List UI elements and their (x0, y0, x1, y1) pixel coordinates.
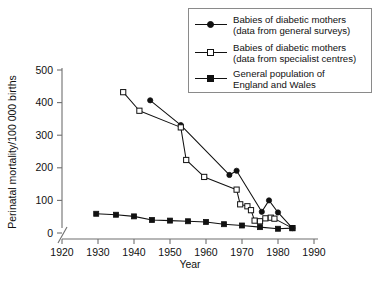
data-point (276, 226, 281, 231)
data-point (168, 218, 173, 223)
x-axis-ticks (62, 239, 314, 244)
series-markers (94, 90, 295, 232)
x-tick-label: 1940 (122, 246, 146, 258)
legend-label-specialist-centres: Babies of diabetic mothers(data from spe… (233, 42, 360, 65)
y-tick-label: 100 (35, 194, 53, 206)
series-lines (96, 92, 292, 229)
series-line-1 (123, 92, 292, 228)
x-tick-label: 1920 (50, 246, 74, 258)
data-point (178, 125, 183, 130)
data-point (275, 210, 280, 215)
data-point (227, 172, 232, 177)
data-point (248, 208, 253, 213)
data-point (114, 212, 119, 217)
data-point (266, 198, 271, 203)
data-point (252, 218, 257, 223)
data-point (222, 222, 227, 227)
data-point (257, 219, 262, 224)
legend-item-general-population: General population ofEngland and Wales (189, 66, 373, 92)
data-point (137, 108, 142, 113)
data-point (263, 216, 268, 221)
data-point (234, 187, 239, 192)
y-axis-tick-labels: 0100200300400500 (35, 64, 53, 239)
data-point (150, 217, 155, 222)
legend-label-line1: Babies of diabetic mothers (233, 42, 346, 53)
series-line-0 (150, 100, 292, 228)
data-point (186, 219, 191, 224)
data-point (234, 168, 239, 173)
x-axis-tick-labels: 19201930194019501960197019801990 (50, 246, 326, 258)
data-point (184, 157, 189, 162)
y-tick-label: 300 (35, 129, 53, 141)
x-tick-label: 1960 (194, 246, 218, 258)
legend-label-line2: England and Wales (233, 79, 316, 90)
data-point (148, 98, 153, 103)
data-point (94, 211, 99, 216)
y-axis-title: Perinatal mortality/100 000 births (6, 75, 18, 229)
legend-marker-filled-square (189, 66, 233, 92)
x-tick-label: 1990 (302, 246, 326, 258)
legend-marker-filled-circle (189, 12, 233, 38)
y-tick-label: 400 (35, 96, 53, 108)
legend-label-line2: (data from general surveys) (233, 25, 350, 36)
y-tick-label: 0 (47, 227, 53, 239)
legend-item-general-surveys: Babies of diabetic mothers(data from gen… (189, 12, 373, 38)
legend-label-line1: Babies of diabetic mothers (233, 14, 346, 25)
y-tick-label: 500 (35, 64, 53, 76)
x-tick-label: 1930 (86, 246, 110, 258)
legend-label-line1: General population of (233, 68, 325, 79)
data-point (204, 219, 209, 224)
data-point (290, 226, 295, 231)
data-point (202, 174, 207, 179)
y-tick-label: 200 (35, 161, 53, 173)
chart-figure: 0100200300400500 19201930194019501960197… (0, 0, 386, 286)
legend-label-general-population: General population ofEngland and Wales (233, 68, 329, 91)
x-axis-title: Year (179, 258, 201, 270)
data-point (132, 214, 137, 219)
legend-label-general-surveys: Babies of diabetic mothers(data from gen… (233, 14, 354, 37)
legend-marker-open-square (189, 40, 233, 66)
data-point (272, 216, 277, 221)
x-tick-label: 1980 (266, 246, 290, 258)
data-point (121, 90, 126, 95)
data-point (259, 209, 264, 214)
data-point (238, 202, 243, 207)
x-tick-label: 1950 (158, 246, 182, 258)
legend-item-specialist-centres: Babies of diabetic mothers(data from spe… (189, 40, 373, 66)
data-point (240, 223, 245, 228)
chart-legend: Babies of diabetic mothers(data from gen… (188, 8, 372, 93)
data-point (258, 225, 263, 230)
legend-label-line2: (data from specialist centres) (233, 53, 356, 64)
x-tick-label: 1970 (230, 246, 254, 258)
y-axis-ticks (57, 70, 62, 233)
